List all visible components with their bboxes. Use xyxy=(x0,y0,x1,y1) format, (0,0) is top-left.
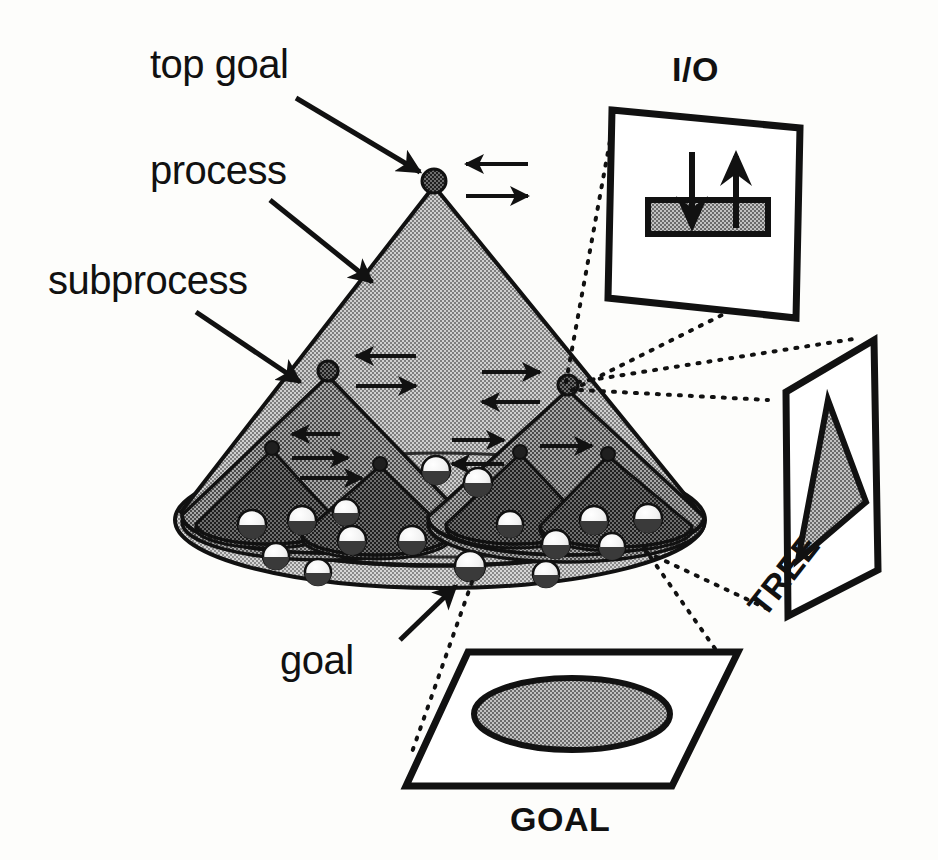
label-process: process xyxy=(150,148,287,193)
top-goal-node xyxy=(422,169,446,193)
leader-process xyxy=(270,200,372,282)
goal-sphere xyxy=(238,510,266,539)
goal-sphere xyxy=(398,526,426,555)
goal-sphere xyxy=(305,559,331,586)
io-panel xyxy=(608,110,800,318)
left-subprocess-node xyxy=(318,361,338,381)
io-hatched-bar xyxy=(648,200,768,234)
label-top-goal: top goal xyxy=(150,42,288,87)
goal-sphere xyxy=(634,504,662,533)
right-subsub-node-b xyxy=(601,447,615,461)
right-subsub-node-a xyxy=(513,445,527,459)
diagram-graphics xyxy=(0,0,938,860)
goal-sphere xyxy=(580,506,608,535)
label-io-panel: I/O xyxy=(672,50,719,89)
goal-sphere xyxy=(338,526,366,555)
leader-top-goal xyxy=(296,98,420,172)
leader-subprocess xyxy=(196,312,300,382)
goal-sphere xyxy=(599,533,625,560)
goal-sphere xyxy=(542,530,570,559)
left-subsub-node-a xyxy=(265,441,279,455)
goal-panel xyxy=(406,652,738,786)
goal-sphere xyxy=(533,561,559,588)
right-subprocess-node xyxy=(558,375,578,395)
leader-goal xyxy=(400,586,456,640)
goal-sphere xyxy=(288,506,316,535)
diagram-canvas: top goal process subprocess goal I/O TRE… xyxy=(0,0,938,860)
goal-sphere xyxy=(422,456,450,485)
goal-sphere xyxy=(455,551,485,582)
label-subprocess: subprocess xyxy=(48,258,248,303)
callout-goal-right xyxy=(644,548,716,650)
label-goal: goal xyxy=(280,638,354,683)
goal-sphere xyxy=(464,468,492,497)
left-subsub-node-b xyxy=(373,457,387,471)
goal-panel-ellipse xyxy=(474,678,670,750)
goal-sphere xyxy=(333,499,359,526)
goal-sphere xyxy=(263,543,289,570)
label-goal-panel: GOAL xyxy=(510,800,610,839)
goal-sphere xyxy=(497,511,523,538)
